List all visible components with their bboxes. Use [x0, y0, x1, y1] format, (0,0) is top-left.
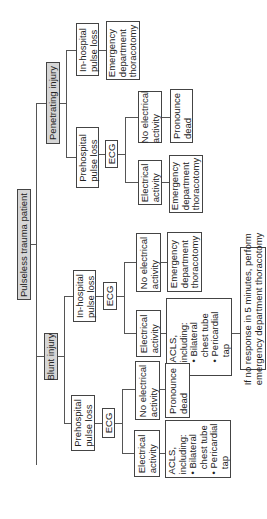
- blunt-elec-node: Electrical activity: [136, 310, 161, 357]
- connector: [99, 50, 106, 51]
- connector: [30, 244, 37, 245]
- pen-in-hospital-node: In-hospital pulse loss: [76, 23, 99, 76]
- connector: [125, 117, 138, 118]
- connector: [95, 423, 102, 424]
- blunt-ed-thoracotomy-node: Emergency department thoracotomy: [167, 232, 202, 292]
- connector: [124, 333, 136, 334]
- blunt-pre-no-elec-node: No electrical activity: [135, 361, 160, 420]
- blunt-pre-pronounce-node: Pronounce dead: [165, 363, 190, 418]
- connector: [162, 182, 169, 183]
- pen-elec-thoracotomy-node: Emergency department thoracotomy: [169, 155, 203, 213]
- root-node: Pulseless trauma patient: [17, 189, 31, 300]
- connector: [125, 182, 138, 183]
- blunt-pre-elec-node: Electrical activity: [134, 430, 160, 477]
- pen-prehospital-node: Prehospital pulse loss: [76, 127, 99, 188]
- pen-ecg-node: ECG: [105, 140, 118, 168]
- pen-elec-node: Electrical activity: [138, 160, 162, 205]
- blunt-no-elec-node: No electrical activity: [136, 233, 161, 292]
- connector: [57, 356, 65, 357]
- blunt-pre-acls-node: ACLS, including: • Bilateral chest tube …: [165, 420, 231, 478]
- connector: [122, 453, 134, 454]
- connector: [232, 333, 240, 334]
- blunt-in-hospital-node: In-hospital pulse loss: [73, 270, 96, 322]
- connector: [162, 117, 170, 118]
- connector: [122, 389, 123, 454]
- connector: [125, 117, 126, 183]
- followup-node: If no response in 5 minutes, perform eme…: [240, 247, 266, 370]
- connector: [64, 296, 73, 297]
- blunt-pre-ecg-node: ECG: [102, 408, 115, 438]
- pen-no-elec-node: No electrical activity: [138, 91, 162, 143]
- connector: [66, 50, 76, 51]
- connector: [36, 356, 44, 357]
- connector: [124, 262, 125, 334]
- blunt-ecg-node: ECG: [103, 282, 117, 310]
- connector: [66, 157, 76, 158]
- pen-ed-thoracotomy-node: Emergency department thoracotomy: [106, 21, 140, 80]
- penetrating-injury-node: Penetrating injury: [46, 62, 60, 144]
- connector: [122, 389, 135, 390]
- connector: [64, 423, 71, 424]
- connector: [59, 103, 67, 104]
- connector: [124, 262, 136, 263]
- pen-pronounce-dead-node: Pronounce dead: [170, 89, 193, 143]
- flowchart: Pulseless trauma patient Penetrating inj…: [0, 0, 267, 519]
- blunt-prehospital-node: Prehospital pulse loss: [71, 395, 95, 451]
- connector: [36, 103, 37, 465]
- blunt-injury-node: Blunt injury: [44, 333, 58, 380]
- connector: [64, 296, 65, 424]
- connector: [66, 50, 67, 158]
- connector: [36, 103, 46, 104]
- connector: [96, 296, 103, 297]
